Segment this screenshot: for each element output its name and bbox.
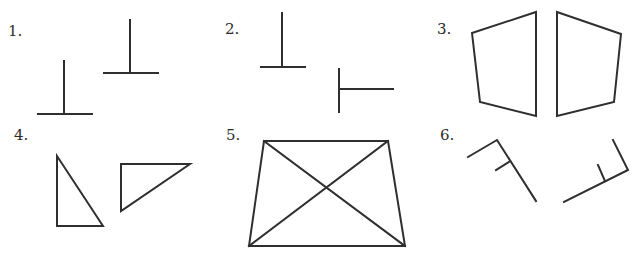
figure-2	[261, 13, 393, 112]
quadrilateral-right	[557, 12, 621, 116]
inverted-t-right	[104, 20, 158, 73]
figure-4	[57, 156, 190, 226]
triangle-left	[57, 156, 103, 226]
bent-figure-left	[468, 140, 536, 201]
figure-1	[38, 20, 158, 114]
inverted-t	[261, 13, 305, 67]
rotated-t	[339, 69, 393, 112]
triangle-right	[121, 164, 190, 211]
figure-5	[249, 141, 405, 246]
diagonal-2	[249, 141, 388, 246]
trapezoid	[249, 141, 405, 246]
inverted-t-left	[38, 61, 92, 114]
figure-sheet: 1. 2. 3. 4. 5. 6.	[0, 0, 636, 256]
figure-6	[468, 140, 628, 202]
figures-canvas	[0, 0, 636, 256]
figure-3	[472, 12, 621, 116]
quadrilateral-left	[472, 12, 536, 116]
diagonal-1	[264, 141, 405, 246]
bent-figure-right	[564, 140, 628, 202]
